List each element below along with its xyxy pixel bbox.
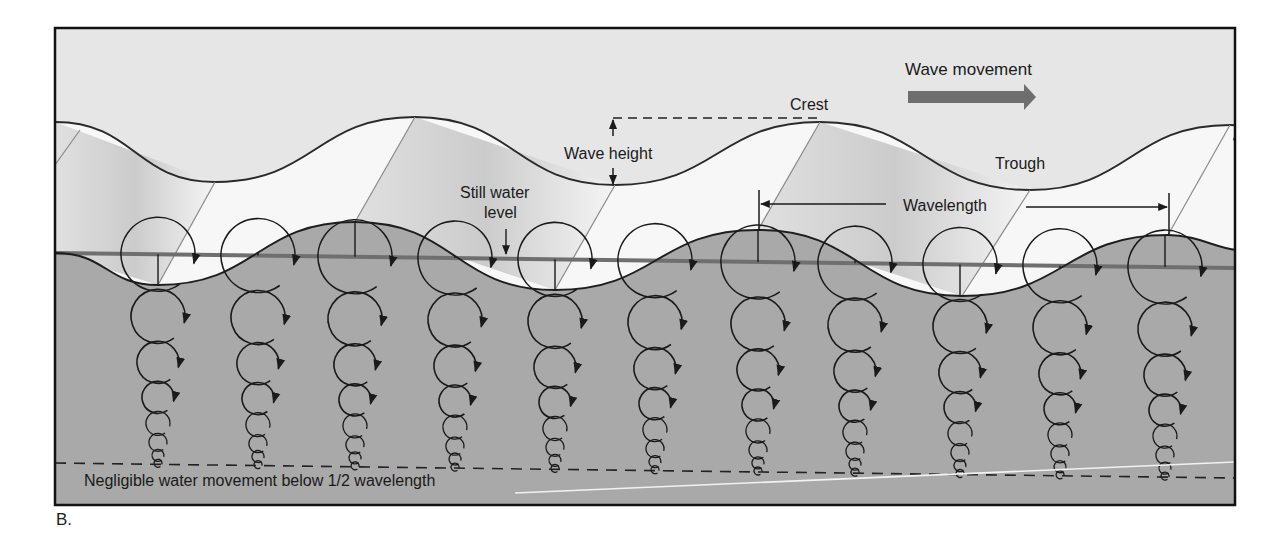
wave-orbital-diagram: Wave movement Crest Wave height Trough S…	[0, 0, 1288, 544]
still-water-label-line1: Still water	[460, 184, 530, 201]
wavelength-label: Wavelength	[903, 197, 987, 214]
diagram-canvas: Wave movement Crest Wave height Trough S…	[0, 0, 1288, 544]
trough-label: Trough	[995, 155, 1045, 172]
still-water-label-line2: level	[484, 204, 517, 221]
panel-label: B.	[56, 510, 72, 530]
wave-movement-label: Wave movement	[905, 60, 1032, 79]
wave-height-label: Wave height	[564, 145, 653, 162]
crest-label: Crest	[790, 96, 829, 113]
negligible-movement-label: Negligible water movement below 1/2 wave…	[84, 472, 435, 489]
